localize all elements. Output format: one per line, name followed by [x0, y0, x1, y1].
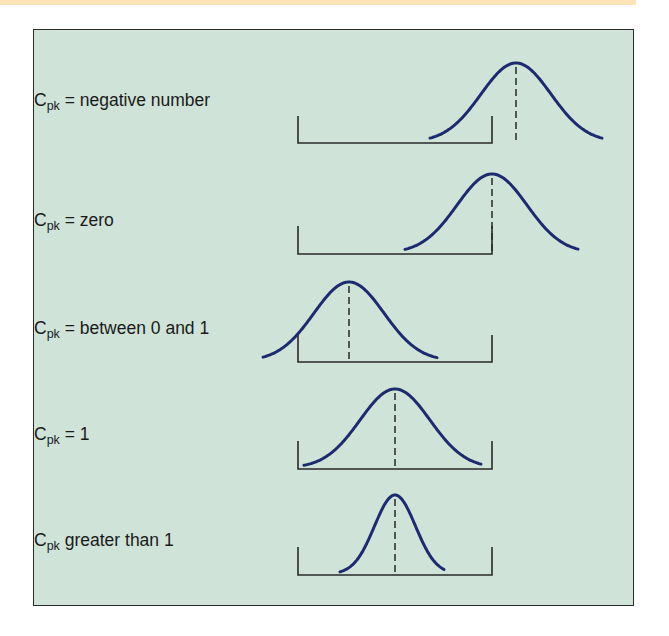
normal-distribution-curve: [263, 282, 437, 358]
normal-distribution-curve: [340, 495, 444, 572]
distribution-figure: [0, 0, 669, 636]
normal-distribution-curve: [304, 389, 481, 465]
distribution-row-1: [298, 63, 602, 143]
spec-limits-bracket: [298, 116, 492, 143]
distribution-row-3: [263, 282, 492, 362]
distribution-row-2: [298, 174, 578, 254]
spec-limits-bracket: [298, 226, 492, 254]
spec-limits-bracket: [298, 335, 492, 362]
distribution-row-4: [298, 389, 492, 469]
distribution-row-5: [298, 495, 492, 575]
